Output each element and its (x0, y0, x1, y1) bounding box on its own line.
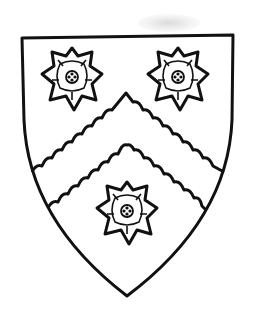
coat-of-arms-image (0, 0, 258, 323)
shield-drawing (0, 0, 258, 323)
